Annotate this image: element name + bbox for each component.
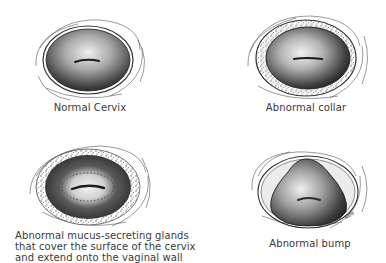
abnormal-mucus-label-line-2: that cover the surface of the cervix xyxy=(15,241,196,252)
abnormal-mucus-label-line-1: Abnormal mucus-secreting glands xyxy=(15,230,196,241)
abnormal-mucus-label: Abnormal mucus-secreting glands that cov… xyxy=(15,230,196,263)
normal-cervix-drawing xyxy=(36,20,145,100)
abnormal-mucus-glands-drawing xyxy=(30,146,150,226)
abnormal-mucus-label-line-3: and extend onto the vaginal wall xyxy=(15,252,196,263)
abnormal-bump-label: Abnormal bump xyxy=(269,238,350,249)
abnormal-collar-drawing xyxy=(248,16,368,98)
normal-cervix-label: Normal Cervix xyxy=(54,102,127,113)
abnormal-collar-label: Abnormal collar xyxy=(266,102,346,113)
